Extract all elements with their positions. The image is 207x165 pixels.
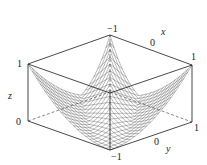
y-tick-max: 1	[194, 122, 199, 133]
y-tick-mid: 0	[154, 136, 159, 147]
y-axis-label: y	[165, 143, 171, 154]
z-tick-1: 1	[17, 58, 22, 69]
x-tick-min: −1	[107, 23, 118, 34]
y-tick-min: −1	[111, 151, 122, 162]
x-axis-label: x	[160, 26, 166, 37]
z-axis-label: z	[7, 90, 12, 101]
surface-plot: 1 0 z −1 0 1 x −1 0 1 y	[0, 0, 207, 165]
x-tick-mid: 0	[150, 37, 155, 48]
bounding-box	[28, 35, 192, 150]
z-tick-0: 0	[16, 116, 21, 127]
x-tick-max: 1	[191, 51, 196, 62]
